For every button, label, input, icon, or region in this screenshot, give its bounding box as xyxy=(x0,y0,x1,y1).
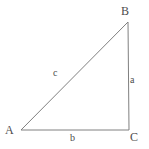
side-label-c: c xyxy=(53,68,57,78)
triangle-figure: A B C a b c xyxy=(0,0,149,149)
vertex-label-c: C xyxy=(130,131,138,143)
vertex-label-b: B xyxy=(121,5,129,17)
side-label-a: a xyxy=(130,75,134,85)
side-label-b: b xyxy=(70,133,75,143)
triangle-drawing xyxy=(0,0,149,149)
vertex-label-a: A xyxy=(5,124,14,136)
triangle-shape xyxy=(21,22,129,130)
